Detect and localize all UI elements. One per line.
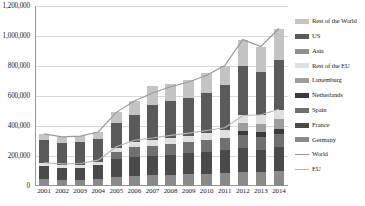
y-axis-tick: 200,000 bbox=[0, 153, 33, 160]
legend-swatch-icon bbox=[295, 34, 309, 39]
legend-item-label: Rest of the EU bbox=[312, 63, 350, 70]
legend-item[interactable]: World bbox=[295, 148, 328, 161]
x-axis-tick: 2004 bbox=[89, 188, 107, 195]
x-axis-tick: 2011 bbox=[216, 188, 234, 195]
x-axis-tick: 2014 bbox=[270, 188, 288, 195]
legend-item-label: France bbox=[312, 122, 329, 129]
plot-area bbox=[35, 6, 288, 186]
legend-item-label: EU bbox=[312, 166, 321, 173]
y-axis-tick: 1,200,000 bbox=[0, 3, 33, 10]
y-axis-tick: 600,000 bbox=[0, 93, 33, 100]
legend-item-label: US bbox=[312, 33, 320, 40]
y-axis-tick: 1,000,000 bbox=[0, 33, 33, 40]
legend-item-label: Luxemburg bbox=[312, 77, 342, 84]
x-axis-tick: 2010 bbox=[198, 188, 216, 195]
line-series-layer bbox=[35, 6, 288, 186]
x-axis-tick: 2006 bbox=[125, 188, 143, 195]
x-axis-tick: 2002 bbox=[53, 188, 71, 195]
legend-item[interactable]: Rest of the World bbox=[295, 15, 357, 28]
legend-swatch-icon bbox=[295, 137, 309, 142]
legend-item[interactable]: Netherlands bbox=[295, 89, 343, 102]
y-axis-tick: 400,000 bbox=[0, 123, 33, 130]
x-axis-tick: 2005 bbox=[107, 188, 125, 195]
legend-item-label: Netherlands bbox=[312, 92, 343, 99]
legend-item-label: Asia bbox=[312, 48, 324, 55]
legend-swatch-icon bbox=[295, 169, 309, 170]
legend-swatch-icon bbox=[295, 78, 309, 83]
x-axis-tick: 2012 bbox=[234, 188, 252, 195]
legend-item[interactable]: Spain bbox=[295, 104, 327, 117]
x-axis-tick: 2013 bbox=[252, 188, 270, 195]
line-series bbox=[44, 29, 279, 137]
chart-legend: Rest of the WorldUSAsiaRest of the EULux… bbox=[295, 15, 365, 180]
x-axis-tick: 2001 bbox=[35, 188, 53, 195]
stacked-bar-chart: 1,200,0001,000,000800,000600,000400,0002… bbox=[0, 0, 365, 206]
legend-item[interactable]: US bbox=[295, 30, 320, 43]
legend-swatch-icon bbox=[295, 108, 309, 113]
y-axis-tick-labels: 1,200,0001,000,000800,000600,000400,0002… bbox=[0, 0, 33, 206]
legend-item[interactable]: EU bbox=[295, 163, 321, 176]
legend-swatch-icon bbox=[295, 154, 309, 155]
legend-item[interactable]: France bbox=[295, 119, 329, 132]
x-axis-tick: 2003 bbox=[71, 188, 89, 195]
x-axis-tick: 2007 bbox=[143, 188, 161, 195]
y-axis-tick: 800,000 bbox=[0, 63, 33, 70]
legend-swatch-icon bbox=[295, 123, 309, 128]
legend-item[interactable]: Rest of the EU bbox=[295, 59, 350, 72]
x-axis-tick: 2008 bbox=[162, 188, 180, 195]
x-axis-tick: 2009 bbox=[180, 188, 198, 195]
legend-item[interactable]: Luxemburg bbox=[295, 74, 342, 87]
y-axis-tick: 0 bbox=[0, 183, 33, 190]
legend-swatch-icon bbox=[295, 19, 309, 24]
legend-swatch-icon bbox=[295, 93, 309, 98]
legend-item-label: World bbox=[312, 151, 328, 158]
legend-item-label: Germany bbox=[312, 137, 336, 144]
legend-item-label: Rest of the World bbox=[312, 18, 357, 25]
legend-item-label: Spain bbox=[312, 107, 327, 114]
legend-swatch-icon bbox=[295, 49, 309, 54]
x-axis-tick-labels: 2001200220032004200520062007200820092010… bbox=[35, 188, 288, 202]
legend-item[interactable]: Asia bbox=[295, 45, 324, 58]
legend-swatch-icon bbox=[295, 63, 309, 68]
legend-item[interactable]: Germany bbox=[295, 133, 336, 146]
